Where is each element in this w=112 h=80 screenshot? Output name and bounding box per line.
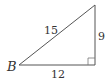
vertex-label-b: B xyxy=(6,59,17,74)
hypotenuse-label: 15 xyxy=(44,24,58,37)
triangle-figure: B 15 9 12 xyxy=(0,0,112,80)
base-label: 12 xyxy=(51,68,65,80)
vertical-side-label: 9 xyxy=(98,30,105,43)
right-angle-marker xyxy=(88,58,95,65)
triangle-diagram: B 15 9 12 xyxy=(0,0,112,80)
